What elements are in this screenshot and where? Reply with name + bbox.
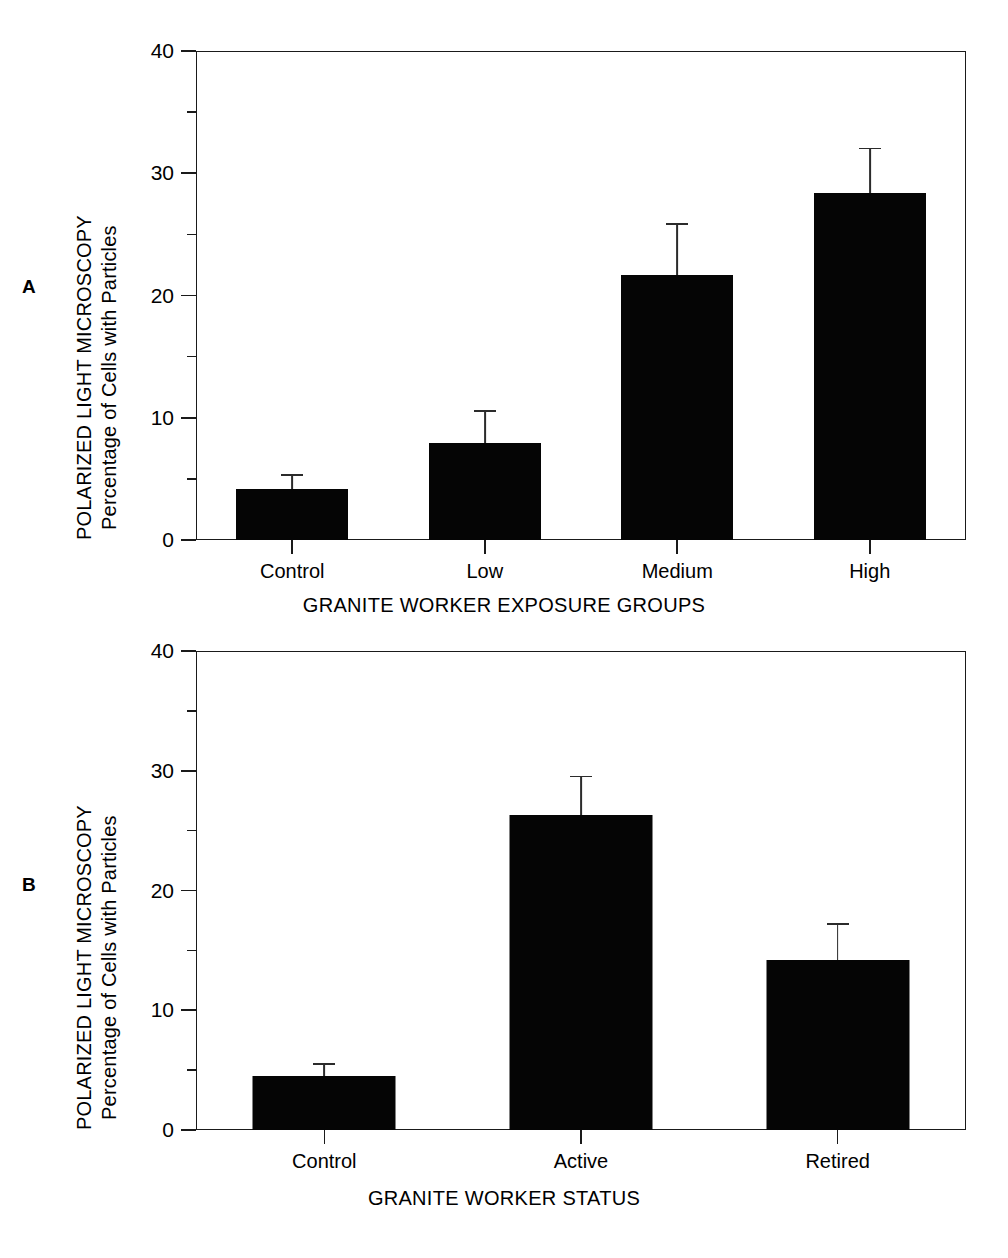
bar xyxy=(429,443,541,540)
error-bar-cap xyxy=(474,410,496,412)
x-tick xyxy=(676,540,678,554)
y-tick-label: 10 xyxy=(104,406,174,430)
x-tick-label: Active xyxy=(554,1150,608,1173)
y-tick-major xyxy=(181,770,196,772)
panel-b-x-axis-title: GRANITE WORKER STATUS xyxy=(0,1187,1008,1210)
y-tick-label: 40 xyxy=(104,39,174,63)
y-axis-title-line2: Percentage of Cells with Particles xyxy=(97,805,122,1130)
x-tick xyxy=(869,540,871,554)
panel-a-letter: A xyxy=(22,276,36,298)
y-axis-title-line1: POLARIZED LIGHT MICROSCOPY xyxy=(72,215,97,540)
y-tick-major xyxy=(181,890,196,892)
y-tick-major xyxy=(181,1129,196,1131)
x-tick-label: High xyxy=(849,560,890,583)
error-bar-cap xyxy=(570,776,592,778)
y-tick-minor xyxy=(187,356,196,358)
x-tick xyxy=(484,540,486,554)
panel-a-y-axis-title: POLARIZED LIGHT MICROSCOPY Percentage of… xyxy=(72,215,122,540)
bar xyxy=(814,193,926,540)
y-tick-label: 40 xyxy=(104,639,174,663)
y-tick-major xyxy=(181,650,196,652)
x-tick xyxy=(837,1130,839,1144)
y-tick-minor xyxy=(187,234,196,236)
y-tick-minor xyxy=(187,950,196,952)
bar xyxy=(621,275,733,540)
x-tick xyxy=(580,1130,582,1144)
error-bar-cap xyxy=(281,474,303,476)
y-tick-major xyxy=(181,1009,196,1011)
x-tick xyxy=(291,540,293,554)
panel-b-letter: B xyxy=(22,874,36,896)
panel-b: B POLARIZED LIGHT MICROSCOPY Percentage … xyxy=(0,600,1008,1258)
error-bar-stem xyxy=(580,776,582,816)
y-axis-title-line2: Percentage of Cells with Particles xyxy=(97,215,122,540)
error-bar-cap xyxy=(827,923,849,925)
y-tick-minor xyxy=(187,111,196,113)
bar xyxy=(766,960,909,1130)
y-tick-minor xyxy=(187,710,196,712)
y-axis-title-line1: POLARIZED LIGHT MICROSCOPY xyxy=(72,805,97,1130)
bar xyxy=(253,1076,396,1130)
y-tick-label: 20 xyxy=(104,284,174,308)
error-bar-stem xyxy=(484,410,486,443)
y-tick-major xyxy=(181,50,196,52)
error-bar-stem xyxy=(869,148,871,193)
panel-b-y-axis-title: POLARIZED LIGHT MICROSCOPY Percentage of… xyxy=(72,805,122,1130)
x-tick-label: Medium xyxy=(642,560,713,583)
x-tick-label: Low xyxy=(466,560,503,583)
y-tick-label: 30 xyxy=(104,759,174,783)
error-bar-stem xyxy=(837,923,839,960)
y-tick-major xyxy=(181,295,196,297)
x-tick-label: Control xyxy=(292,1150,356,1173)
y-tick-label: 0 xyxy=(104,1118,174,1142)
error-bar-cap xyxy=(313,1063,335,1065)
y-tick-major xyxy=(181,539,196,541)
y-tick-minor xyxy=(187,1069,196,1071)
error-bar-cap xyxy=(666,223,688,225)
x-tick xyxy=(324,1130,326,1144)
error-bar-stem xyxy=(323,1063,325,1076)
y-tick-minor xyxy=(187,830,196,832)
y-tick-label: 10 xyxy=(104,998,174,1022)
bar xyxy=(236,489,348,540)
error-bar-stem xyxy=(676,223,678,274)
panel-a: A POLARIZED LIGHT MICROSCOPY Percentage … xyxy=(0,0,1008,620)
y-tick-major xyxy=(181,417,196,419)
y-tick-major xyxy=(181,172,196,174)
y-tick-minor xyxy=(187,478,196,480)
y-tick-label: 20 xyxy=(104,879,174,903)
figure-root: A POLARIZED LIGHT MICROSCOPY Percentage … xyxy=(0,0,1008,1258)
bar xyxy=(510,815,653,1130)
error-bar-cap xyxy=(859,148,881,150)
y-tick-label: 0 xyxy=(104,528,174,552)
x-tick-label: Control xyxy=(260,560,324,583)
x-tick-label: Retired xyxy=(805,1150,869,1173)
y-tick-label: 30 xyxy=(104,161,174,185)
error-bar-stem xyxy=(291,474,293,489)
